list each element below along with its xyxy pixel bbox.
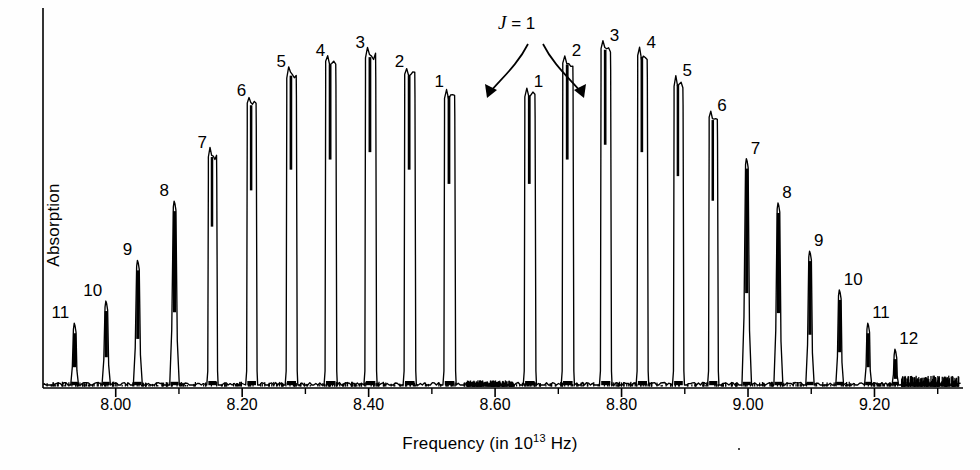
x-tick-label-8-60: 8.60	[455, 396, 535, 414]
x-tick-label-8-00: 8.00	[76, 396, 156, 414]
peak-label-p-4: 4	[316, 42, 325, 59]
peak-label-p-6: 6	[237, 82, 246, 99]
spectrum-noise-overlay	[46, 50, 959, 387]
j-equals-one-annotation: J = 1	[498, 12, 535, 34]
peak-label-r-2: 2	[572, 42, 581, 59]
peak-label-p-8: 8	[160, 182, 169, 199]
peak-label-r-3: 3	[610, 27, 619, 44]
print-speck	[738, 448, 740, 450]
spectrum-figure: Absorption Frequency (in 1013 Hz) J = 1 …	[0, 0, 980, 470]
peak-label-p-1: 1	[435, 73, 444, 90]
peak-label-r-11: 11	[872, 304, 890, 321]
peak-label-p-7: 7	[197, 134, 206, 151]
peak-label-r-10: 10	[844, 271, 863, 288]
peak-label-r-12: 12	[899, 330, 918, 347]
x-tick-label-8-20: 8.20	[202, 396, 282, 414]
peak-label-r-1: 1	[534, 73, 543, 90]
peak-label-p-3: 3	[356, 34, 365, 51]
x-axis-title-exponent: 13	[533, 432, 546, 444]
peak-label-p-2: 2	[395, 53, 404, 70]
peak-label-p-5: 5	[276, 53, 285, 70]
x-tick-label-9-00: 9.00	[708, 396, 788, 414]
peak-label-r-5: 5	[682, 62, 691, 79]
peak-label-p-10: 10	[83, 282, 102, 299]
axis-lines	[43, 8, 963, 388]
peak-label-r-6: 6	[717, 97, 726, 114]
x-axis-title: Frequency (in 1013 Hz)	[0, 432, 980, 454]
x-tick-label-8-40: 8.40	[329, 396, 409, 414]
peak-label-p-11: 11	[52, 304, 70, 321]
spectrum-trace	[44, 41, 961, 385]
x-tick-label-8-80: 8.80	[582, 396, 662, 414]
peak-label-p-9: 9	[123, 241, 132, 258]
peak-label-r-7: 7	[751, 140, 760, 157]
x-tick-label-9-20: 9.20	[834, 396, 914, 414]
j-equals-value: = 1	[506, 14, 535, 33]
peak-label-r-9: 9	[814, 232, 823, 249]
x-axis-title-prefix: Frequency (in 10	[402, 434, 533, 453]
y-axis-title: Absorption	[44, 135, 64, 315]
peak-label-r-8: 8	[782, 184, 791, 201]
peak-label-r-4: 4	[646, 34, 655, 51]
x-axis-title-suffix: Hz)	[546, 434, 578, 453]
